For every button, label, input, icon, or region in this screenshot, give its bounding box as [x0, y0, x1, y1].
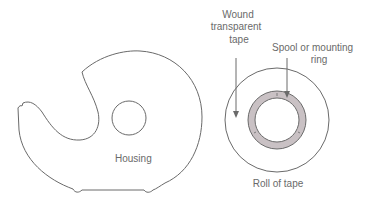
tape-dispenser-diagram: Housing Wound transparent tape Spool or …: [0, 0, 374, 199]
wound-tape-label-line2: transparent: [211, 21, 262, 32]
spool-inner-circle: [255, 98, 299, 142]
wound-tape-label-line3: tape: [229, 34, 249, 45]
spool-label-line1: Spool or mounting: [272, 42, 353, 53]
housing-label: Housing: [115, 153, 152, 164]
wound-tape-label-line1: Wound: [222, 9, 254, 20]
housing-hub-circle: [112, 101, 146, 135]
roll-label: Roll of tape: [253, 178, 304, 189]
wound-tape-arrowhead-icon: [233, 111, 239, 118]
housing-outline: [18, 51, 202, 192]
spool-label-line2: ring: [311, 54, 328, 65]
